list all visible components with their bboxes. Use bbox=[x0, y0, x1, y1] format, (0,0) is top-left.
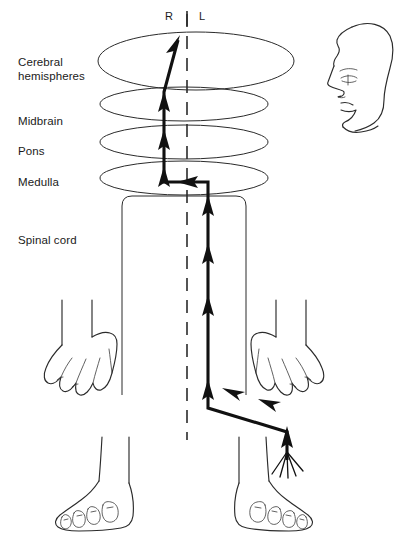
right-hand-knuckle-2 bbox=[290, 384, 296, 387]
nose-bridge-and-tip bbox=[328, 66, 344, 97]
right-hand-finger-crease-2 bbox=[282, 359, 292, 383]
left-foot-toe-2 bbox=[73, 511, 86, 528]
eye-upper-lid bbox=[341, 76, 357, 78]
lower-lip-and-chin bbox=[341, 110, 356, 127]
arrowhead-leg-diagonal-1 bbox=[258, 399, 281, 412]
left-foot-toe-3 bbox=[87, 507, 101, 525]
sensory-pathway-diagram: R L Cerebral hemispheres Midbrain Pons M… bbox=[0, 0, 401, 543]
right-leg-and-foot bbox=[235, 437, 313, 531]
left-hand-finger-crease-2 bbox=[76, 359, 86, 383]
midbrain-outline bbox=[100, 87, 268, 121]
left-hand-finger-crease-1 bbox=[61, 358, 72, 377]
cerebral-hemispheres-outline bbox=[98, 32, 294, 90]
label-midbrain: Midbrain bbox=[18, 114, 63, 128]
right-foot-toe-1 bbox=[297, 515, 308, 529]
tract-path bbox=[164, 40, 287, 460]
right-leg-inner-line bbox=[266, 437, 269, 481]
eyebrow bbox=[340, 69, 357, 71]
head-outline bbox=[352, 24, 393, 131]
spinal-cord-outline bbox=[122, 196, 246, 395]
right-foot-toe-4 bbox=[250, 502, 266, 523]
left-hand-thumb-crease bbox=[109, 349, 112, 373]
pons-outline bbox=[100, 125, 268, 159]
label-cerebral-hemispheres-line1: Cerebral bbox=[18, 55, 63, 69]
right-hand-thumb-crease bbox=[256, 349, 259, 373]
left-hand-outline bbox=[44, 332, 117, 395]
eye-lower-lid bbox=[342, 81, 356, 83]
label-medulla: Medulla bbox=[18, 175, 59, 189]
right-foot-toe-2 bbox=[283, 511, 296, 528]
receptor-ray-5 bbox=[287, 452, 303, 471]
right-hand-finger-crease-1 bbox=[296, 358, 307, 377]
right-hand-finger-crease-3 bbox=[268, 358, 275, 383]
right-foot-toe-3 bbox=[268, 507, 282, 525]
medulla-outline bbox=[100, 161, 268, 195]
arrowhead-leg-diagonal-2 bbox=[222, 388, 245, 401]
left-leg-and-foot bbox=[56, 437, 134, 531]
left-leg-inner-line bbox=[99, 437, 102, 481]
label-spinal-cord: Spinal cord bbox=[18, 233, 77, 247]
left-foot-toenail-marks bbox=[64, 507, 113, 520]
arrowhead-medulla-ascent bbox=[158, 166, 170, 187]
right-foot-outline bbox=[235, 481, 313, 531]
left-foot-toe-4 bbox=[102, 502, 118, 523]
head-profile bbox=[328, 24, 393, 133]
forehead-brow-ridge bbox=[334, 27, 352, 66]
left-arm-and-hand bbox=[44, 300, 117, 395]
right-foot-toenail-marks bbox=[255, 507, 304, 520]
receptor-ray-1 bbox=[272, 452, 287, 474]
cns-structures bbox=[98, 32, 294, 395]
right-hand-outline bbox=[251, 332, 324, 395]
left-hand-knuckle-2 bbox=[72, 384, 78, 387]
left-foot-outline bbox=[56, 481, 134, 531]
left-hand-finger-crease-3 bbox=[93, 358, 100, 383]
nostril bbox=[338, 97, 345, 98]
right-arm-and-hand bbox=[251, 300, 324, 395]
sensory-pathway-tract bbox=[158, 35, 303, 478]
label-cerebral-hemispheres-line2: hemispheres bbox=[18, 69, 85, 83]
left-foot-toe-1 bbox=[61, 515, 72, 529]
orientation-label-right: R bbox=[165, 10, 173, 22]
upper-lip bbox=[341, 103, 353, 105]
label-pons: Pons bbox=[18, 144, 45, 158]
orientation-label-left: L bbox=[199, 10, 205, 22]
